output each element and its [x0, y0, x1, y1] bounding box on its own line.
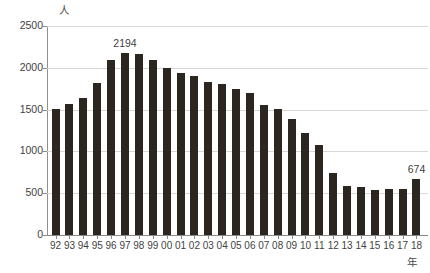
x-tick-mark-06 [250, 236, 251, 239]
bar-95 [93, 83, 101, 235]
gridline-2500 [47, 26, 428, 27]
x-tick-mark-09 [292, 236, 293, 239]
x-tick-mark-96 [111, 236, 112, 239]
bar-12 [329, 173, 337, 235]
bar-07 [260, 105, 268, 235]
x-tick-mark-95 [97, 236, 98, 239]
x-tick-mark-10 [305, 236, 306, 239]
x-tick-mark-02 [194, 236, 195, 239]
bar-08 [274, 109, 282, 235]
y-tick-label-500: 500 [3, 187, 43, 198]
bar-92 [52, 109, 60, 235]
x-tick-mark-13 [347, 236, 348, 239]
x-tick-mark-18 [416, 236, 417, 239]
bar-17 [399, 189, 407, 235]
y-tick-label-1500: 1500 [3, 104, 43, 115]
x-tick-mark-17 [403, 236, 404, 239]
bar-02 [190, 76, 198, 235]
bar-13 [343, 186, 351, 235]
x-tick-mark-99 [153, 236, 154, 239]
bar-00 [163, 68, 171, 235]
bar-99 [149, 60, 157, 235]
x-tick-mark-16 [389, 236, 390, 239]
plot-area [47, 26, 428, 235]
gridline-2000 [47, 68, 428, 69]
bar-01 [177, 73, 185, 235]
bar-14 [357, 187, 365, 235]
x-tick-mark-97 [125, 236, 126, 239]
value-label-97: 2194 [105, 37, 145, 49]
x-tick-mark-94 [83, 236, 84, 239]
x-tick-mark-03 [208, 236, 209, 239]
bar-11 [315, 145, 323, 235]
bar-10 [301, 133, 309, 235]
bar-16 [385, 189, 393, 235]
y-tick-label-1000: 1000 [3, 145, 43, 156]
bar-18 [412, 179, 420, 235]
bar-97 [121, 53, 129, 235]
x-tick-mark-98 [139, 236, 140, 239]
y-tick-label-0: 0 [3, 229, 43, 240]
bar-09 [288, 119, 296, 235]
bar-04 [218, 84, 226, 235]
bar-98 [135, 54, 143, 235]
x-tick-mark-11 [319, 236, 320, 239]
x-tick-mark-93 [69, 236, 70, 239]
y-tick-label-2500: 2500 [3, 20, 43, 31]
bar-03 [204, 82, 212, 235]
x-tick-label-18: 18 [406, 240, 426, 252]
bar-chart-figure: 人 年 05001000150020002500 929394959697989… [0, 0, 430, 273]
x-tick-mark-00 [167, 236, 168, 239]
x-tick-mark-04 [222, 236, 223, 239]
bar-93 [65, 104, 73, 235]
x-axis-unit-label: 年 [407, 256, 417, 268]
x-tick-mark-08 [278, 236, 279, 239]
x-tick-mark-15 [375, 236, 376, 239]
x-tick-mark-07 [264, 236, 265, 239]
x-tick-mark-92 [56, 236, 57, 239]
gridline-0 [47, 235, 428, 236]
x-tick-mark-05 [236, 236, 237, 239]
bar-94 [79, 98, 87, 235]
x-tick-mark-14 [361, 236, 362, 239]
bar-06 [246, 93, 254, 235]
bar-15 [371, 190, 379, 235]
y-axis-unit-label: 人 [59, 4, 69, 16]
x-tick-mark-12 [333, 236, 334, 239]
bar-96 [107, 60, 115, 235]
value-label-18: 674 [396, 163, 430, 175]
y-tick-label-2000: 2000 [3, 62, 43, 73]
x-tick-mark-01 [181, 236, 182, 239]
bar-05 [232, 89, 240, 235]
